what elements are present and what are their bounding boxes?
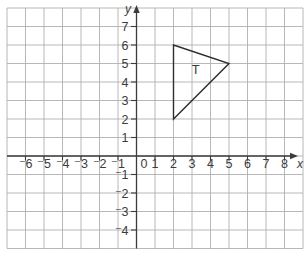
x-tick-label: 2 <box>170 157 177 171</box>
y-tick-label: 4 <box>122 76 129 90</box>
x-tick-label: 1 <box>152 157 159 171</box>
coordinate-plane-figure: xy⁻6⁻5⁻4⁻3⁻2⁻10123456787654321⁻1⁻2⁻3⁻4T <box>0 0 307 256</box>
x-tick-label-0: 0 <box>141 157 148 171</box>
y-tick-label: 7 <box>122 20 129 34</box>
y-tick-label: ⁻4 <box>115 224 129 238</box>
x-tick-label: ⁻6 <box>19 157 33 171</box>
y-tick-label: 5 <box>122 57 129 71</box>
shape-label-T: T <box>192 62 200 77</box>
y-tick-label: ⁻1 <box>115 168 129 182</box>
x-tick-label: 5 <box>226 157 233 171</box>
x-tick-label: ⁻3 <box>74 157 88 171</box>
y-tick-label: 2 <box>122 113 129 127</box>
x-tick-label: 4 <box>207 157 214 171</box>
y-tick-label: ⁻2 <box>115 187 129 201</box>
y-axis-letter: y <box>124 2 132 16</box>
x-tick-label: 7 <box>263 157 270 171</box>
y-tick-label: 6 <box>122 39 129 53</box>
x-tick-label: ⁻5 <box>37 157 51 171</box>
y-tick-label: 1 <box>122 131 129 145</box>
y-tick-label: ⁻3 <box>115 205 129 219</box>
x-tick-label: 8 <box>281 157 288 171</box>
x-tick-label: ⁻4 <box>56 157 70 171</box>
y-tick-label: 3 <box>122 94 129 108</box>
x-tick-label: 6 <box>244 157 251 171</box>
y-axis-arrow-icon <box>133 5 139 13</box>
x-tick-label: 3 <box>189 157 196 171</box>
x-axis-letter: x <box>296 157 304 171</box>
x-tick-label: ⁻2 <box>93 157 107 171</box>
coordinate-plane: xy⁻6⁻5⁻4⁻3⁻2⁻10123456787654321⁻1⁻2⁻3⁻4T <box>0 0 307 256</box>
